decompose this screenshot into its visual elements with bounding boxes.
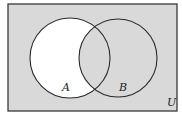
- set-a-label: A: [61, 81, 70, 94]
- venn-diagram: A B U: [0, 0, 182, 114]
- universe-label: U: [167, 96, 177, 109]
- set-b-label: B: [118, 81, 127, 94]
